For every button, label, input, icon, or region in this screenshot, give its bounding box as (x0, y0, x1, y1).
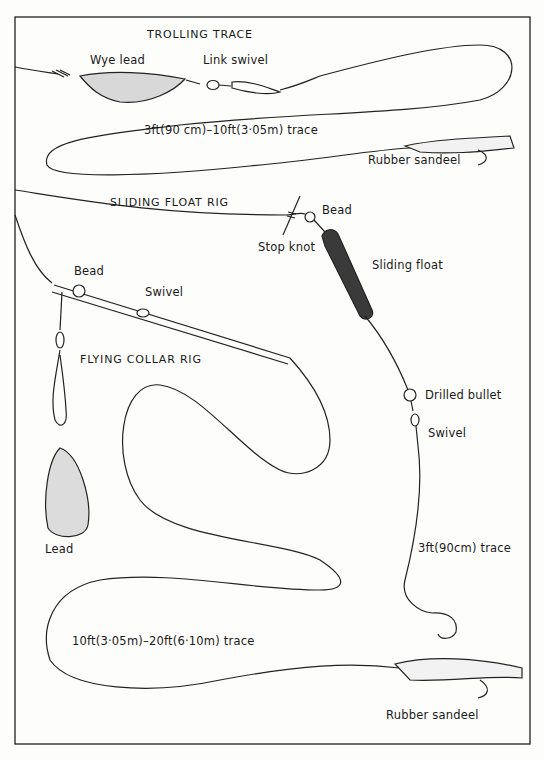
bead-icon (73, 285, 85, 297)
sliding-float-rig-title: SLIDING FLOAT RIG (110, 196, 229, 209)
collar-rubber-sandeel-label: Rubber sandeel (386, 708, 479, 722)
float-swivel-label: Swivel (428, 426, 466, 440)
swivel-icon (137, 309, 149, 317)
float-trace-length-label: 3ft(90cm) trace (418, 541, 511, 555)
float-bead-label: Bead (322, 203, 352, 217)
sliding-float-label: Sliding float (372, 258, 443, 272)
flying-collar-rig-title: FLYING COLLAR RIG (80, 353, 202, 366)
rubber-sandeel-icon (395, 659, 522, 681)
rubber-sandeel-label: Rubber sandeel (368, 153, 461, 167)
flying-collar-rig (15, 215, 522, 698)
rubber-sandeel-icon (405, 136, 514, 153)
drilled-bullet-icon (404, 389, 416, 401)
collar-bead-label: Bead (74, 264, 104, 278)
swivel-icon (207, 81, 219, 90)
sliding-float-icon (322, 230, 373, 319)
swivel-icon (411, 414, 419, 426)
link-swivel-icon (232, 82, 280, 94)
trolling-trace-title: TROLLING TRACE (147, 28, 253, 41)
collar-trace-length-label: 10ft(3·05m)–20ft(6·10m) trace (72, 634, 254, 648)
wye-lead-icon (80, 72, 185, 102)
swivel-icon (56, 332, 64, 348)
hook-icon (432, 613, 456, 638)
wye-lead-label: Wye lead (90, 53, 145, 67)
bead-icon (305, 212, 315, 222)
trolling-trace-length-label: 3ft(90 cm)–10ft(3·05m) trace (144, 123, 318, 137)
lead-weight-icon (46, 448, 89, 537)
stop-knot-label: Stop knot (258, 240, 315, 254)
drilled-bullet-label: Drilled bullet (425, 388, 502, 402)
collar-swivel-label: Swivel (145, 285, 183, 299)
link-swivel-label: Link swivel (203, 53, 268, 67)
lead-label: Lead (45, 542, 73, 556)
